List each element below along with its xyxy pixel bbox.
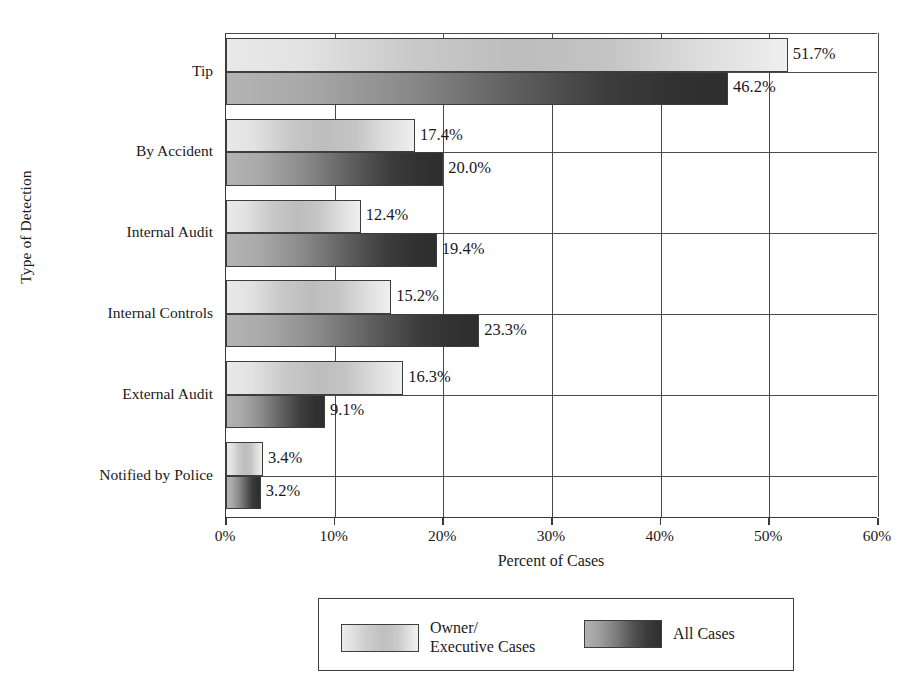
- plot-area: [225, 33, 877, 518]
- legend-swatch-light-icon: [341, 624, 419, 652]
- x-tick-label-50: 50%: [733, 527, 803, 545]
- value-label-4-series-1: 9.1%: [330, 400, 364, 420]
- bar-0-series-0: [226, 38, 788, 72]
- x-tick-40: [660, 518, 662, 525]
- category-label-0: Tip: [0, 62, 213, 80]
- gridline-50: [769, 33, 770, 517]
- legend-item-all-cases: All Cases: [584, 620, 735, 648]
- legend-item-owner-executive-cases: Owner/ Executive Cases: [341, 619, 535, 657]
- gridline-10: [335, 33, 336, 517]
- x-tick-20: [442, 518, 444, 525]
- gridline-40: [661, 33, 662, 517]
- value-label-3-series-0: 15.2%: [396, 286, 439, 306]
- x-tick-label-30: 30%: [516, 527, 586, 545]
- legend-swatch-dark-icon: [584, 620, 662, 648]
- category-label-2: Internal Audit: [0, 223, 213, 241]
- gridline-20: [443, 33, 444, 517]
- x-axis-title: Percent of Cases: [225, 552, 877, 570]
- x-tick-10: [334, 518, 336, 525]
- value-label-5-series-1: 3.2%: [266, 481, 300, 501]
- gridline-30: [552, 33, 553, 517]
- group-separator-5: [226, 476, 877, 477]
- value-label-2-series-0: 12.4%: [366, 205, 409, 225]
- legend-label-line2: Executive Cases: [430, 638, 535, 655]
- bar-5-series-0: [226, 442, 263, 476]
- bar-2-series-1: [226, 233, 437, 267]
- category-label-3: Internal Controls: [0, 304, 213, 322]
- value-label-1-series-0: 17.4%: [420, 125, 463, 145]
- value-label-5-series-0: 3.4%: [268, 448, 302, 468]
- bar-chart: Type of Detection Percent of Cases TipBy…: [0, 0, 917, 695]
- bar-1-series-0: [226, 119, 415, 153]
- bar-5-series-1: [226, 476, 261, 510]
- bar-4-series-0: [226, 361, 403, 395]
- category-label-5: Notified by Police: [0, 466, 213, 484]
- value-label-3-series-1: 23.3%: [484, 320, 527, 340]
- x-tick-label-10: 10%: [299, 527, 369, 545]
- value-label-0-series-1: 46.2%: [733, 77, 776, 97]
- value-label-0-series-0: 51.7%: [793, 44, 836, 64]
- x-tick-label-60: 60%: [842, 527, 912, 545]
- value-label-1-series-1: 20.0%: [448, 158, 491, 178]
- value-label-2-series-1: 19.4%: [442, 239, 485, 259]
- bar-1-series-1: [226, 152, 443, 186]
- x-tick-label-20: 20%: [407, 527, 477, 545]
- bar-3-series-1: [226, 314, 479, 348]
- bar-4-series-1: [226, 395, 325, 429]
- x-tick-label-0: 0%: [190, 527, 260, 545]
- legend-label-line1: Owner/: [430, 619, 478, 636]
- x-tick-50: [768, 518, 770, 525]
- legend-label-all-cases: All Cases: [673, 625, 735, 644]
- value-label-4-series-0: 16.3%: [408, 367, 451, 387]
- legend: Owner/ Executive Cases All Cases: [318, 598, 794, 671]
- gridline-60: [878, 33, 879, 517]
- x-tick-label-40: 40%: [625, 527, 695, 545]
- bar-0-series-1: [226, 72, 728, 106]
- category-label-1: By Accident: [0, 142, 213, 160]
- bar-2-series-0: [226, 200, 361, 234]
- x-tick-60: [877, 518, 879, 525]
- bar-3-series-0: [226, 280, 391, 314]
- category-label-4: External Audit: [0, 385, 213, 403]
- x-tick-0: [225, 518, 227, 525]
- x-tick-30: [551, 518, 553, 525]
